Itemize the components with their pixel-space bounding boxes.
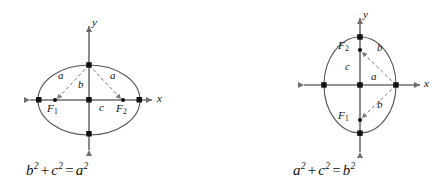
segment-label-a-left: a [58, 70, 64, 81]
eq-term-3: a [76, 162, 84, 178]
eq-exp-1: 2 [34, 161, 39, 171]
focus-label-f1-subscript: 1 [345, 114, 349, 123]
focus-label-f1: F1 [338, 110, 348, 121]
focus-label-f2: F2 [116, 103, 126, 114]
segment-label-a-horizontal: a [371, 71, 377, 82]
focus-label-f2-letter: F [338, 39, 345, 51]
eq-exp-1: 2 [301, 161, 306, 171]
focus-label-f1: F1 [47, 103, 57, 114]
eq-term-1: a [293, 162, 301, 178]
center-marker [86, 97, 92, 103]
eq-op-equals: = [63, 162, 76, 178]
equation-vertical-ellipse: a2+c2=b2 [293, 162, 355, 179]
vertex-top-marker [357, 34, 363, 40]
x-axis-label: x [424, 78, 429, 89]
vertex-right-marker [137, 97, 143, 103]
segment-label-b-vertical: b [78, 79, 84, 90]
covertex-top-marker [86, 62, 92, 67]
covertex-left-marker [321, 82, 327, 88]
segment-label-a-right: a [110, 70, 116, 81]
vertex-bottom-marker [357, 130, 363, 136]
eq-exp-3: 2 [351, 161, 356, 171]
center-marker [357, 82, 363, 88]
focus-label-f2-subscript: 2 [345, 44, 349, 53]
focus-f2-marker [358, 48, 362, 52]
x-axis-label: x [157, 93, 162, 104]
eq-op-plus: + [306, 162, 319, 178]
eq-op-plus: + [39, 162, 52, 178]
segment-label-b-lower: b [377, 99, 383, 110]
eq-term-1: b [26, 162, 34, 178]
eq-exp-3: 2 [84, 161, 89, 171]
vertex-left-marker [36, 97, 42, 103]
focus-f1-marker [358, 118, 362, 122]
focus-label-f2-subscript: 2 [123, 107, 127, 116]
ellipse-figure-sheet: x y a a b c F1 F2 x y b b c a F2 F1 b2+c… [0, 0, 436, 191]
covertex-bottom-marker [86, 131, 92, 137]
y-axis-label: y [363, 9, 368, 20]
equation-horizontal-ellipse: b2+c2=a2 [26, 162, 88, 179]
focus-label-f1-letter: F [47, 102, 54, 114]
segment-label-c-horizontal: c [99, 102, 104, 113]
segment-label-b-upper: b [377, 42, 383, 53]
segment-label-c-vertical: c [345, 61, 350, 72]
eq-term-3: b [343, 162, 351, 178]
focus-label-f2-letter: F [116, 102, 123, 114]
y-axis-label: y [92, 17, 97, 28]
covertex-right-marker [393, 82, 399, 88]
panel-horizontal-ellipse [30, 26, 152, 150]
panel-vertical-ellipse [304, 18, 420, 152]
focus-label-f1-subscript: 1 [54, 107, 58, 116]
eq-op-equals: = [330, 162, 343, 178]
focus-label-f1-letter: F [338, 109, 345, 121]
focus-label-f2: F2 [338, 40, 348, 51]
focal-radius-upper-dashed [362, 52, 396, 85]
